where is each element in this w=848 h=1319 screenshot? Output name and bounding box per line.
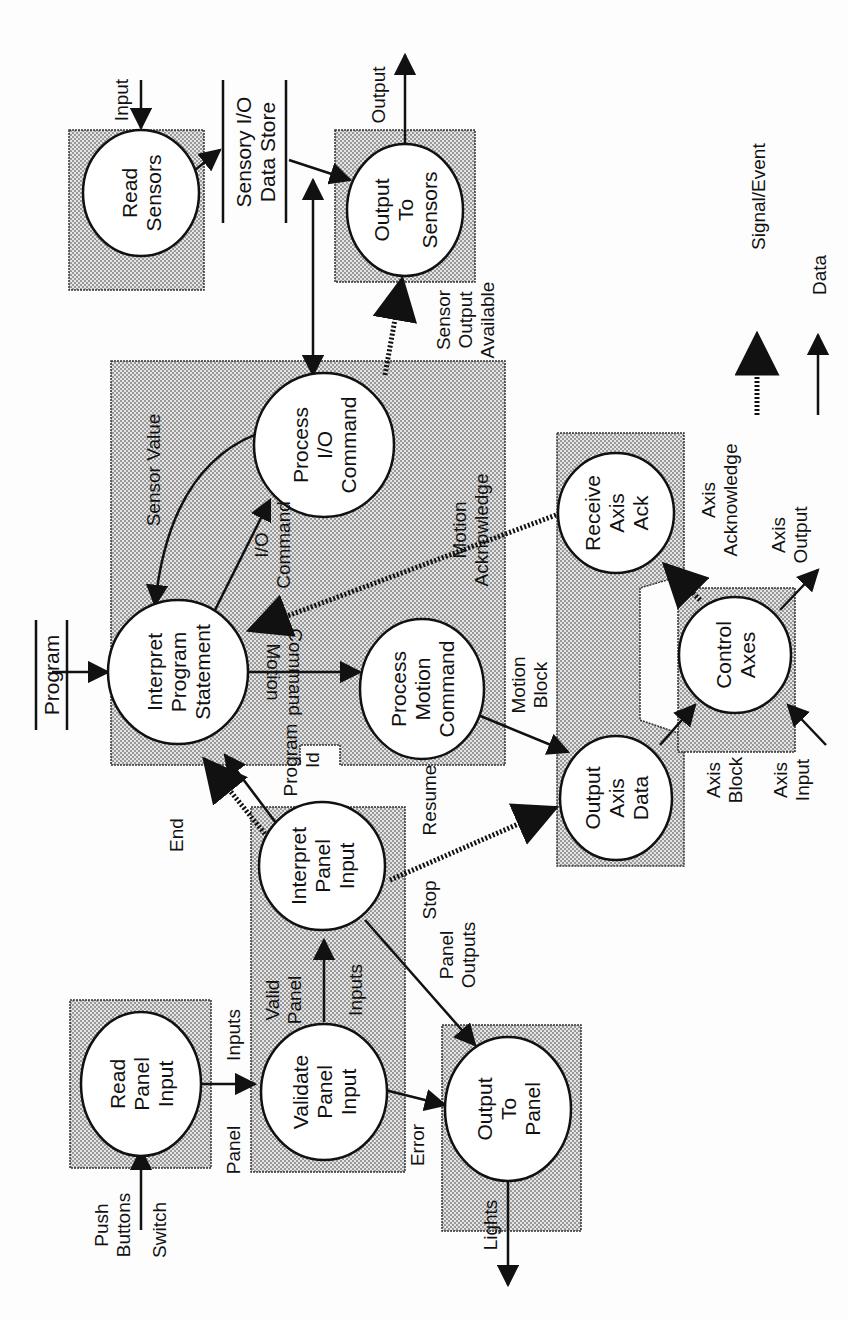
label-receive: Receive xyxy=(581,475,604,551)
label-program: Program xyxy=(167,632,190,713)
flow-panel-outputs: Panel Outputs xyxy=(436,922,479,989)
flow-axis-acknowledge: Axis Acknowledge xyxy=(698,443,741,556)
process-control-axes[interactable] xyxy=(679,597,791,713)
svg-text:I/O: I/O xyxy=(251,532,272,557)
label-input: Input xyxy=(337,1068,360,1115)
legend-signal-event: Signal/Event xyxy=(748,143,769,250)
label-input: Input xyxy=(335,842,358,889)
flow-panel-label: Panel xyxy=(223,1126,244,1175)
label-axis: Axis xyxy=(605,778,628,818)
label-interpret: Interpret xyxy=(143,633,166,711)
svg-text:Input: Input xyxy=(792,758,813,801)
svg-text:Command: Command xyxy=(285,628,306,716)
svg-text:Program: Program xyxy=(280,724,301,797)
flow-end: End xyxy=(166,818,187,852)
flow-valid-panel: Valid Panel xyxy=(262,976,305,1025)
label-input: Input xyxy=(154,1060,177,1107)
svg-text:Output: Output xyxy=(790,506,811,564)
label-panel: Panel xyxy=(130,1057,153,1111)
label-data-store: Data Store xyxy=(256,102,279,202)
svg-text:Valid: Valid xyxy=(262,980,283,1021)
flow-axis-input: Axis Input xyxy=(770,758,813,801)
flow-stop: Stop xyxy=(419,880,440,919)
label-output: Output xyxy=(581,766,604,829)
svg-text:Sensor: Sensor xyxy=(433,289,454,350)
flow-output: Output xyxy=(368,66,389,124)
flow-inputs: Inputs xyxy=(345,964,366,1016)
flow-input: Input xyxy=(111,78,132,121)
label-data: Data xyxy=(629,776,652,821)
flow-sensor-output-available: Sensor Output Available xyxy=(433,282,498,359)
flow-error: Error xyxy=(407,1123,428,1166)
label-process: Process xyxy=(289,407,312,483)
label-to: To xyxy=(394,199,417,221)
data-flow-diagram: Read Sensors Output To Sensors Interpret… xyxy=(0,0,848,1319)
svg-text:Block: Block xyxy=(725,756,746,803)
svg-text:Acknowledge: Acknowledge xyxy=(471,473,492,586)
label-to: To xyxy=(497,1098,520,1120)
label-panel: Panel xyxy=(313,1065,336,1119)
svg-text:Axis: Axis xyxy=(770,762,791,798)
label-panel: Panel xyxy=(311,839,334,893)
svg-text:Block: Block xyxy=(530,661,551,708)
svg-text:Axis: Axis xyxy=(703,762,724,798)
label-panel: Panel xyxy=(521,1082,544,1136)
label-statement: Statement xyxy=(191,624,214,720)
label-command: Command xyxy=(337,397,360,494)
legend-data: Data xyxy=(809,254,830,295)
label-sensors: Sensors xyxy=(418,171,441,248)
svg-text:Buttons: Buttons xyxy=(113,1193,134,1257)
svg-text:Acknowledge: Acknowledge xyxy=(720,443,741,556)
flow-push-buttons: Push Buttons xyxy=(91,1193,134,1257)
svg-text:Id: Id xyxy=(302,752,323,768)
label-sensory-io: Sensory I/O xyxy=(232,97,255,208)
label-program-store: Program xyxy=(40,635,63,716)
flow-sensor-value: Sensor Value xyxy=(143,414,164,527)
label-output: Output xyxy=(370,178,393,241)
label-output: Output xyxy=(473,1077,496,1140)
svg-text:Motion: Motion xyxy=(263,643,284,700)
label-read: Read xyxy=(106,1059,129,1109)
legend: Signal/Event Data xyxy=(748,143,830,295)
label-ack: Ack xyxy=(629,495,652,531)
diagram-page: Read Sensors Output To Sensors Interpret… xyxy=(0,0,848,1319)
label-interpret: Interpret xyxy=(287,827,310,905)
svg-text:Output: Output xyxy=(455,291,476,349)
svg-text:Command: Command xyxy=(273,501,294,589)
flow-motion-block: Motion Block xyxy=(508,656,551,713)
flow-axis-output: Axis Output xyxy=(768,506,811,564)
svg-text:Panel: Panel xyxy=(436,931,457,980)
label-axis: Axis xyxy=(605,493,628,533)
flow-inputs-label: Inputs xyxy=(223,1009,244,1061)
svg-text:Panel: Panel xyxy=(284,976,305,1025)
process-read-sensors[interactable] xyxy=(83,130,199,256)
svg-text:Axis: Axis xyxy=(768,517,789,553)
label-control: Control xyxy=(712,621,735,689)
svg-text:Outputs: Outputs xyxy=(458,922,479,989)
label-motion: Motion xyxy=(411,657,434,720)
label-process: Process xyxy=(387,651,410,727)
svg-text:Push: Push xyxy=(91,1203,112,1246)
label-validate: Validate xyxy=(289,1055,312,1129)
label-command: Command xyxy=(435,641,458,738)
svg-text:Motion: Motion xyxy=(508,656,529,713)
flow-axis-block: Axis Block xyxy=(703,756,746,803)
svg-text:Axis: Axis xyxy=(698,482,719,518)
label-io: I/O xyxy=(313,431,336,459)
flow-lights: Lights xyxy=(480,1200,501,1251)
label-read: Read xyxy=(118,168,141,218)
flow-switch: Switch xyxy=(149,1202,170,1258)
svg-text:Motion: Motion xyxy=(449,501,470,558)
svg-text:Available: Available xyxy=(477,282,498,359)
label-sensors: Sensors xyxy=(142,154,165,231)
label-axes: Axes xyxy=(736,632,759,679)
flow-resume: Resume xyxy=(419,765,440,836)
